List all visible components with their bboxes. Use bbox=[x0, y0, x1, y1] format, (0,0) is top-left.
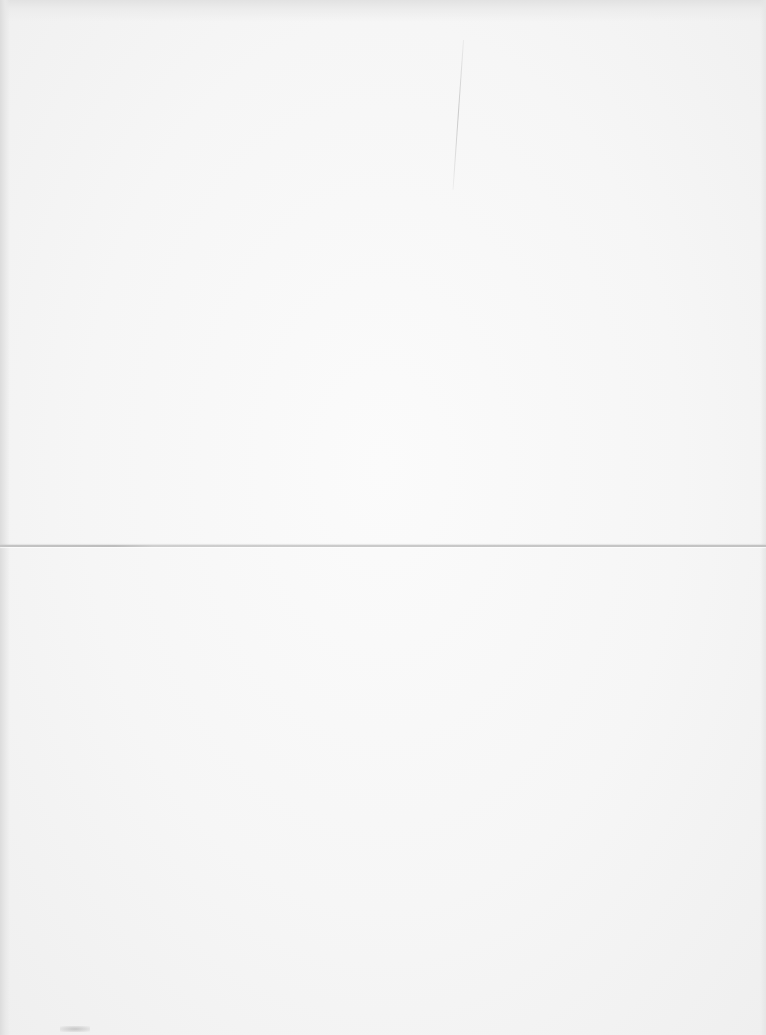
scan-left-edge-shadow bbox=[0, 0, 10, 1035]
vertical-scratch-mark bbox=[453, 40, 464, 190]
scan-top-edge-shadow bbox=[0, 0, 766, 22]
horizontal-fold-line bbox=[0, 545, 766, 547]
scanned-blank-page bbox=[0, 0, 766, 1035]
scan-right-edge-shadow bbox=[760, 0, 766, 1035]
paper-speck bbox=[60, 1026, 90, 1032]
